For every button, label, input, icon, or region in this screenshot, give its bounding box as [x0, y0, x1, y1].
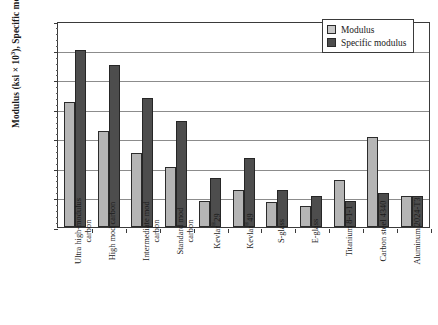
x-axis-label: Carbon steel 4340: [379, 201, 389, 262]
x-axis-label: Kevlar®49: [243, 213, 255, 248]
bar-modulus: [199, 201, 210, 227]
x-axis-tick-mark: [431, 229, 432, 233]
y-axis-minor-tick: [56, 223, 59, 224]
x-axis-label-line: High mod carbon: [108, 202, 118, 261]
y-axis-title-sup-a: 3: [9, 52, 16, 55]
x-axis-label: S-glass: [277, 219, 287, 243]
bar-modulus: [131, 153, 142, 227]
registered-mark: ®: [244, 222, 250, 226]
legend-label-specific-modulus: Specific modulus: [341, 38, 406, 48]
bar-modulus: [233, 190, 244, 227]
x-axis-label: Titanium 8-1-1: [345, 206, 355, 257]
y-axis-minor-tick: [56, 93, 59, 94]
legend-swatch-specific-modulus: [327, 38, 336, 47]
bar-groups: [58, 23, 429, 227]
registered-mark: ®: [211, 222, 217, 226]
x-axis-label-cell: High mod carbon: [91, 231, 125, 323]
y-axis-minor-tick: [56, 205, 59, 206]
y-axis-minor-tick: [56, 99, 59, 100]
x-axis-label-line: Kevlar®49: [243, 213, 255, 248]
y-axis-minor-tick: [56, 181, 59, 182]
y-axis-minor-tick: [56, 211, 59, 212]
y-axis-tick-mark: [54, 23, 58, 24]
y-axis-minor-tick: [56, 70, 59, 71]
y-axis-minor-tick: [56, 75, 59, 76]
bar-group: [193, 23, 227, 227]
x-axis-label-cell: Aluminum 2024-T3: [396, 231, 430, 323]
y-axis-tick-mark: [54, 229, 58, 230]
y-axis-minor-tick: [56, 105, 59, 106]
y-axis-minor-tick: [56, 87, 59, 88]
bar-modulus: [98, 131, 109, 227]
y-axis-minor-tick: [56, 46, 59, 47]
y-axis-minor-tick: [56, 146, 59, 147]
x-axis-label: High mod carbon: [108, 202, 118, 261]
bar-modulus: [401, 196, 412, 227]
x-axis-label-cell: S-glass: [260, 231, 294, 323]
legend-item-specific-modulus: Specific modulus: [327, 36, 406, 49]
bar-modulus: [266, 202, 277, 227]
chart-root: Modulus (ksi × 103), Specific modulus (1…: [0, 0, 438, 325]
y-axis-minor-tick: [56, 117, 59, 118]
x-axis-label-cell: Kevlar®49: [227, 231, 261, 323]
y-axis-tick-mark: [54, 199, 58, 200]
y-axis-minor-tick: [56, 187, 59, 188]
y-axis-minor-tick: [56, 28, 59, 29]
bar-group: [159, 23, 193, 227]
bar-group: [328, 23, 362, 227]
y-axis-minor-tick: [56, 193, 59, 194]
x-axis-label-cell: Carbon steel 4340: [362, 231, 396, 323]
y-axis-minor-tick: [56, 40, 59, 41]
y-axis-minor-tick: [56, 152, 59, 153]
x-axis-label-cell: Ultra high-moduluscarbon: [57, 231, 91, 323]
bar-group: [92, 23, 126, 227]
y-axis-minor-tick: [56, 123, 59, 124]
legend-label-modulus: Modulus: [341, 25, 374, 35]
x-axis-label: Aluminum 2024-T3: [413, 197, 423, 264]
y-axis-tick-mark: [54, 52, 58, 53]
y-axis-minor-tick: [56, 128, 59, 129]
x-axis-label: E-glass: [311, 219, 321, 244]
legend-swatch-modulus: [327, 25, 336, 34]
x-axis-label-cell: Intermediate modcarbon: [125, 231, 159, 323]
y-axis-minor-tick: [56, 134, 59, 135]
y-axis-tick-mark: [54, 81, 58, 82]
x-axis-label-line: Aluminum 2024-T3: [413, 197, 423, 264]
y-axis-minor-tick: [56, 217, 59, 218]
bar-group: [260, 23, 294, 227]
x-axis-label-cell: Kevlar®29: [193, 231, 227, 323]
bar-modulus: [334, 180, 345, 227]
y-axis-minor-tick: [56, 158, 59, 159]
bar-modulus: [300, 206, 311, 227]
x-axis-label-line: Titanium 8-1-1: [345, 206, 355, 257]
legend-item-modulus: Modulus: [327, 23, 406, 36]
y-axis-minor-tick: [56, 164, 59, 165]
y-axis-title-part-b: ), Specific modulus (10: [11, 0, 21, 52]
y-axis-tick-mark: [54, 140, 58, 141]
bar-group: [362, 23, 396, 227]
bar-group: [227, 23, 261, 227]
y-axis-title: Modulus (ksi × 103), Specific modulus (1…: [9, 0, 21, 134]
x-axis-label-cell: Titanium 8-1-1: [328, 231, 362, 323]
x-axis-label-line: E-glass: [311, 219, 321, 244]
x-axis-label: Kevlar®29: [210, 213, 222, 248]
bar-group: [125, 23, 159, 227]
y-axis-title-part-a: Modulus (ksi × 10: [11, 55, 21, 128]
bar-modulus: [367, 137, 378, 227]
x-axis-label-cell: E-glass: [294, 231, 328, 323]
y-axis-minor-tick: [56, 64, 59, 65]
x-axis-label-line: Standard mod: [176, 208, 186, 255]
x-axis-label-line: Ultra high-modulus: [74, 198, 84, 264]
bar-group: [294, 23, 328, 227]
x-axis-labels: Ultra high-moduluscarbonHigh mod carbonI…: [57, 231, 430, 323]
y-axis-tick-mark: [54, 111, 58, 112]
y-axis-minor-tick: [56, 34, 59, 35]
x-axis-label-line: Intermediate mod: [142, 201, 152, 260]
y-axis-tick-mark: [54, 170, 58, 171]
x-axis-label-line: Kevlar®29: [210, 213, 222, 248]
bar-group: [58, 23, 92, 227]
x-axis-label-cell: Standard modcarbon: [159, 231, 193, 323]
y-axis-minor-tick: [56, 58, 59, 59]
x-axis-label-line: S-glass: [277, 219, 287, 243]
chart-legend: Modulus Specific modulus: [322, 19, 414, 53]
